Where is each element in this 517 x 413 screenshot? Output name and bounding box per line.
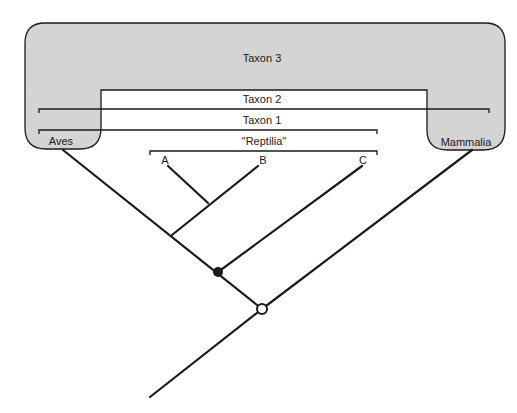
taxon1-label: Taxon 1 — [243, 114, 282, 126]
taxon-c-label: C — [359, 154, 367, 166]
branch-aves — [63, 150, 262, 309]
mammalia-label: Mammalia — [441, 136, 492, 148]
branch-b — [172, 166, 258, 235]
taxon2-bracket — [39, 109, 489, 113]
filled-node — [213, 267, 223, 277]
branch-root — [150, 309, 262, 397]
taxon3-label: Taxon 3 — [243, 52, 282, 64]
taxon3-region — [25, 23, 505, 150]
aves-label: Aves — [49, 135, 73, 147]
branch-a — [168, 166, 208, 203]
taxon-b-label: B — [259, 154, 266, 166]
taxon2-label: Taxon 2 — [243, 93, 282, 105]
taxon-a-label: A — [161, 154, 168, 166]
open-node — [257, 304, 267, 314]
branch-mammalia — [262, 150, 472, 309]
reptilia-label: "Reptilia" — [242, 135, 287, 147]
